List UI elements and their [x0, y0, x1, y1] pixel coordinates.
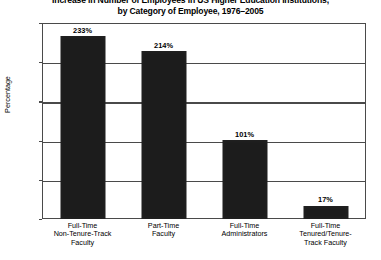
bars-layer: 233% 214% 101% 17%	[42, 23, 366, 219]
x-axis-category-labels: Full-Time Non-Tenure-Track Faculty Part-…	[42, 222, 366, 260]
chart-title: Increase in Number of Employees in US Hi…	[0, 0, 381, 16]
category-label-1-line-3: Faculty	[42, 239, 123, 247]
category-label-4: Full-Time Tenured/Tenure- Track Faculty	[285, 222, 366, 247]
bar-slot-3: 101%	[204, 23, 285, 219]
bar-full-time-non-tenure-track-faculty[interactable]	[60, 36, 105, 219]
category-label-4-line-3: Track Faculty	[285, 239, 366, 247]
category-label-2: Part-Time Faculty	[123, 222, 204, 239]
chart-title-line-1: Increase in Number of Employees in US Hi…	[0, 0, 381, 6]
bar-value-3: 101%	[235, 130, 254, 139]
y-axis-title: Percentage	[3, 65, 12, 125]
bar-full-time-tenured-tenure-track-faculty[interactable]	[303, 206, 348, 219]
category-label-1: Full-Time Non-Tenure-Track Faculty	[42, 222, 123, 247]
category-label-2-line-2: Faculty	[123, 230, 204, 238]
bar-slot-1: 233%	[42, 23, 123, 219]
bar-value-1: 233%	[73, 26, 92, 35]
bar-part-time-faculty[interactable]	[141, 51, 186, 219]
bar-full-time-administrators[interactable]	[222, 140, 267, 219]
bar-value-2: 214%	[154, 41, 173, 50]
bar-value-4: 17%	[318, 195, 333, 204]
chart-figure: Increase in Number of Employees in US Hi…	[0, 0, 381, 260]
category-label-3: Full-Time Administrators	[204, 222, 285, 239]
category-label-3-line-2: Administrators	[204, 230, 285, 238]
bar-slot-2: 214%	[123, 23, 204, 219]
chart-title-line-2: by Category of Employee, 1976–2005	[0, 6, 381, 17]
bar-slot-4: 17%	[285, 23, 366, 219]
